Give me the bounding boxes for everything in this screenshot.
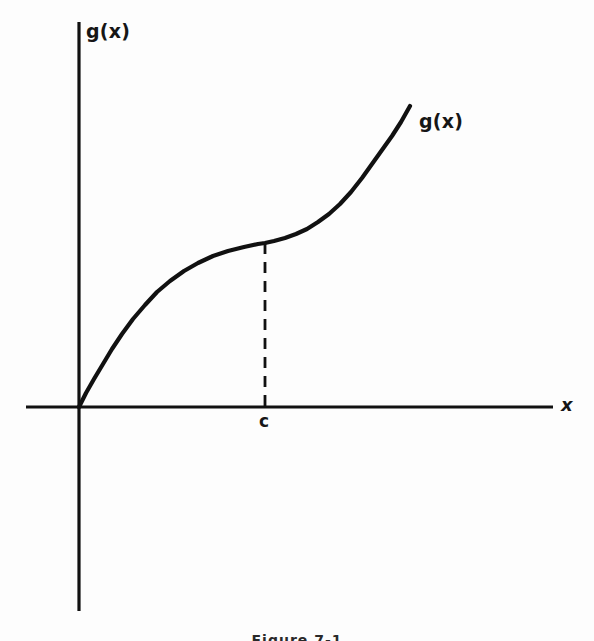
y-axis-label: g(x) xyxy=(86,20,130,42)
plot-canvas xyxy=(0,0,594,641)
x-axis-label: x xyxy=(561,394,573,415)
function-curve-g xyxy=(79,106,410,407)
figure-container: g(x) g(x) x c Figure 7-1 xyxy=(0,0,594,641)
c-tick-label: c xyxy=(259,411,269,431)
curve-label: g(x) xyxy=(419,110,463,132)
figure-caption: Figure 7-1 xyxy=(0,632,594,641)
